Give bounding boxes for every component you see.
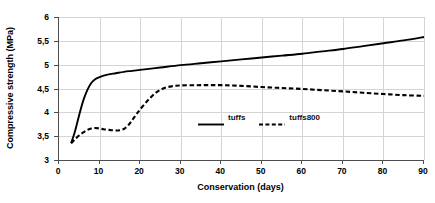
x-axis-tick-mark [382, 160, 383, 164]
y-axis-tick-label: 3,5 [37, 131, 49, 141]
x-axis-tick-mark [342, 160, 343, 164]
series-line-tuffs [71, 37, 424, 143]
x-axis-tick-labels: 0102030405060708090 [58, 166, 423, 180]
plot-area [58, 17, 424, 161]
x-axis-tick-mark [220, 160, 221, 164]
x-axis-tick-mark [139, 160, 140, 164]
x-axis-tick-label: 80 [378, 166, 387, 176]
x-axis-tick-mark [99, 160, 100, 164]
y-axis-tick-label: 4 [44, 107, 49, 117]
x-axis-tick-label: 0 [56, 166, 61, 176]
x-axis-tick-label: 10 [94, 166, 103, 176]
x-axis-tick-mark [301, 160, 302, 164]
x-axis-title: Conservation (days) [58, 182, 423, 192]
y-axis-title: Compressive strength (MPa) [0, 0, 20, 175]
x-axis-tick-mark [180, 160, 181, 164]
x-axis-tick-label: 50 [256, 166, 265, 176]
x-axis-tick-label: 70 [337, 166, 346, 176]
x-axis-tick-label: 40 [215, 166, 224, 176]
x-axis-tick-mark [261, 160, 262, 164]
y-axis-title-text: Compressive strength (MPa) [5, 26, 15, 148]
y-axis-tick-label: 4,5 [37, 84, 49, 94]
x-axis-tick-marks [58, 160, 423, 164]
y-axis-tick-label: 6 [44, 12, 49, 22]
legend-label: tuffs800 [289, 113, 320, 122]
y-axis-tick-labels: 33,544,555,56 [20, 0, 54, 175]
x-axis-tick-mark [423, 160, 424, 164]
chart-legend: tuffstuffs800 [196, 112, 322, 123]
x-axis-tick-label: 90 [418, 166, 427, 176]
y-axis-tick-label: 5 [44, 60, 49, 70]
legend-swatch-dashed-line-icon [259, 114, 285, 121]
x-axis-tick-label: 60 [297, 166, 306, 176]
x-axis-tick-mark [58, 160, 59, 164]
y-axis-tick-label: 5,5 [37, 36, 49, 46]
x-axis-tick-label: 20 [134, 166, 143, 176]
vertical-gridline [424, 17, 425, 160]
series-lines [59, 17, 424, 160]
legend-entry-tuffs[interactable]: tuffs [198, 113, 245, 122]
legend-entry-tuffs800[interactable]: tuffs800 [259, 113, 320, 122]
x-axis-tick-label: 30 [175, 166, 184, 176]
y-axis-tick-label: 3 [44, 155, 49, 165]
legend-swatch-solid-line-icon [198, 114, 224, 121]
legend-label: tuffs [228, 113, 245, 122]
compressive-strength-chart: Compressive strength (MPa) 33,544,555,56… [0, 0, 435, 203]
